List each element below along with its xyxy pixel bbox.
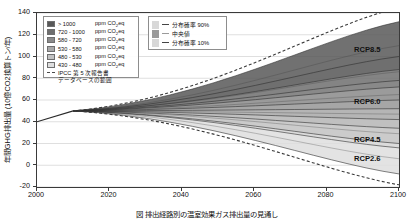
x-tick-mark xyxy=(253,188,254,191)
scenario-label-rcp4-5: RCP4.5 xyxy=(354,135,381,144)
x-tick-mark xyxy=(181,188,182,191)
legend-probability-label: 分布確率 90% xyxy=(172,20,209,29)
legend-probability: 分布確率 90%中央値分布確率 10% xyxy=(148,16,227,50)
legend-band-range: 580 - 720 xyxy=(58,37,95,43)
legend-ipcc-range: IPCC 第 5 次報告書 データベースの範囲 xyxy=(47,70,135,83)
legend-concentration-bands: > 1000ppm CO2eq720 - 1000ppm CO2eq580 - … xyxy=(43,16,139,78)
historical-line xyxy=(37,111,73,122)
legend-band-row: 480 - 530ppm CO2eq xyxy=(47,53,135,60)
legend-color-swatch xyxy=(47,29,55,35)
legend-line-icon xyxy=(162,33,172,34)
legend-band-unit: ppm CO2eq xyxy=(95,61,124,69)
legend-color-swatch xyxy=(47,46,55,52)
legend-band-range: 530 - 580 xyxy=(58,46,95,52)
legend-band-row: 530 - 580ppm CO2eq xyxy=(47,45,135,52)
x-tick-label: 2100 xyxy=(378,191,414,198)
legend-color-swatch xyxy=(47,21,55,27)
legend-band-range: > 1000 xyxy=(58,21,95,27)
scenario-label-rcp6-0: RCP6.0 xyxy=(354,97,381,106)
figure-caption: 図 排出経路別の温室効果ガス排出量の見通し xyxy=(0,208,414,219)
legend-probability-label: 中央値 xyxy=(172,29,190,38)
legend-median-swatch xyxy=(152,30,159,38)
legend-color-swatch xyxy=(47,37,55,43)
x-tick-mark xyxy=(326,188,327,191)
legend-band-row: 580 - 720ppm CO2eq xyxy=(47,37,135,44)
x-tick-mark xyxy=(108,188,109,191)
y-tick-label: 20 xyxy=(10,139,30,146)
y-tick-label: 120 xyxy=(10,30,30,37)
legend-band-unit: ppm CO2eq xyxy=(95,44,124,52)
x-tick-mark xyxy=(398,188,399,191)
legend-line-icon xyxy=(162,42,172,43)
legend-band-row: 430 - 480ppm CO2eq xyxy=(47,61,135,68)
x-tick-label: 2020 xyxy=(88,191,128,198)
legend-color-swatch xyxy=(47,62,55,68)
chart-figure: 年間GHG排出量 (10億CO2換算トン/年) 1401201008060402… xyxy=(0,0,414,223)
legend-band-swatch xyxy=(152,39,159,47)
x-tick-mark xyxy=(36,188,37,191)
legend-color-swatch xyxy=(47,54,55,60)
legend-probability-row: 分布確率 90% xyxy=(152,20,223,29)
legend-probability-row: 分布確率 10% xyxy=(152,38,223,47)
scenario-label-rcp2-6: RCP2.6 xyxy=(354,154,381,163)
legend-probability-row: 中央値 xyxy=(152,29,223,38)
y-tick-label: 100 xyxy=(10,52,30,59)
legend-probability-label: 分布確率 10% xyxy=(172,38,209,47)
legend-band-unit: ppm CO2eq xyxy=(95,20,124,28)
x-tick-label: 2000 xyxy=(16,191,56,198)
y-tick-label: 80 xyxy=(10,74,30,81)
y-tick-label: 40 xyxy=(10,117,30,124)
y-tick-label: -20 xyxy=(10,182,30,189)
legend-band-row: 720 - 1000ppm CO2eq xyxy=(47,28,135,35)
legend-band-unit: ppm CO2eq xyxy=(95,53,124,61)
y-tick-label: 60 xyxy=(10,95,30,102)
x-tick-label: 2040 xyxy=(161,191,201,198)
legend-band-range: 720 - 1000 xyxy=(58,29,95,35)
x-tick-label: 2080 xyxy=(306,191,346,198)
legend-band-range: 480 - 530 xyxy=(58,54,95,60)
legend-ipcc-range-label: IPCC 第 5 次報告書 データベースの範囲 xyxy=(58,70,112,83)
y-tick-label: 0 xyxy=(10,161,30,168)
legend-band-range: 430 - 480 xyxy=(58,62,95,68)
x-tick-label: 2060 xyxy=(233,191,273,198)
legend-band-swatch xyxy=(152,21,159,29)
legend-band-row: > 1000ppm CO2eq xyxy=(47,20,135,27)
legend-band-unit: ppm CO2eq xyxy=(95,36,124,44)
y-tick-label: 140 xyxy=(10,8,30,15)
legend-band-unit: ppm CO2eq xyxy=(95,28,124,36)
dashed-line-icon xyxy=(47,70,55,74)
scenario-label-rcp8-5: RCP8.5 xyxy=(354,45,381,54)
legend-line-icon xyxy=(162,24,172,25)
